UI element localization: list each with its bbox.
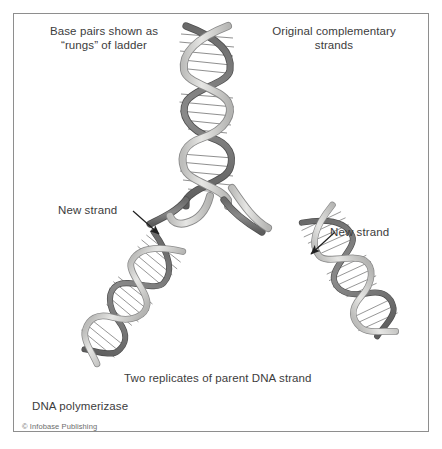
label-two-replicates: Two replicates of parent DNA strand — [124, 371, 324, 385]
dna-replication-figure: Base pairs shown as “rungs” of ladder Or… — [0, 0, 442, 449]
label-original-strands: Original complementary strands — [256, 24, 412, 52]
replication-fork — [150, 188, 268, 232]
label-new-strand-right: New strand — [330, 225, 420, 239]
label-new-strand-left: New strand — [58, 203, 148, 217]
daughter-helix-left — [70, 229, 187, 372]
label-base-pairs: Base pairs shown as “rungs” of ladder — [28, 24, 180, 52]
copyright-notice: © Infobase Publishing — [22, 422, 222, 431]
label-dna-polymerizase: DNA polymerizase — [32, 399, 192, 413]
parent-helix — [180, 26, 235, 206]
